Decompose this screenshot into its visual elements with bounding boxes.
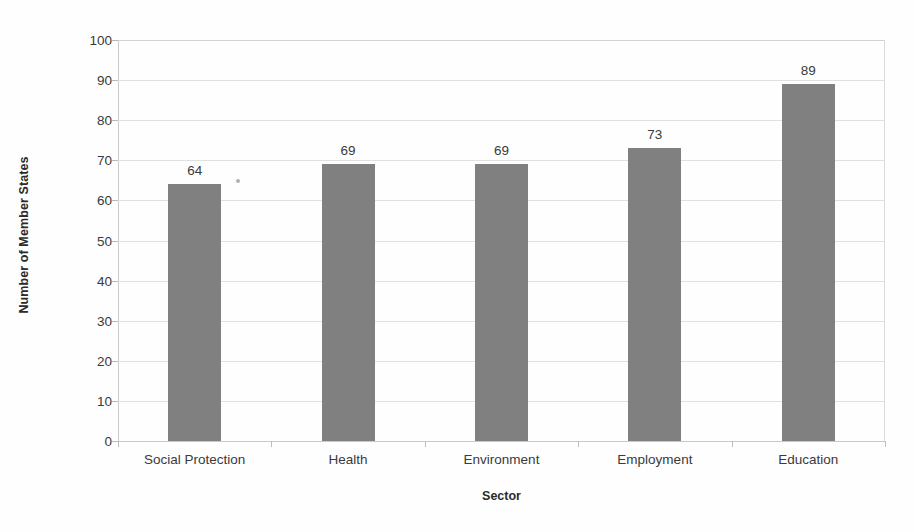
bar (475, 164, 528, 441)
y-tick-label-30: 30 (58, 313, 112, 328)
y-tick-label-20: 20 (58, 353, 112, 368)
y-tick-label-0: 0 (58, 434, 112, 449)
y-tick-label-40: 40 (58, 273, 112, 288)
y-tick-label-90: 90 (58, 73, 112, 88)
y-tick-label-60: 60 (58, 193, 112, 208)
x-category-label: Health (271, 452, 424, 467)
x-category-label: Employment (578, 452, 731, 467)
y-tick-label-50: 50 (58, 233, 112, 248)
x-category-label: Environment (425, 452, 578, 467)
bar-chart: Number of Member States 0102030405060708… (0, 0, 915, 532)
scan-artifact-speck (236, 179, 240, 183)
bar-series: 6469697389 (118, 40, 885, 441)
x-axis-title: Sector (118, 489, 885, 503)
bar (628, 148, 681, 441)
bar-value-label: 64 (118, 163, 271, 178)
x-tick-mark-2 (425, 441, 426, 447)
bar-value-label: 69 (425, 143, 578, 158)
x-category-label: Social Protection (118, 452, 271, 467)
y-tick-label-80: 80 (58, 113, 112, 128)
bar (782, 84, 835, 441)
x-category-label: Education (732, 452, 885, 467)
y-tick-label-100: 100 (58, 33, 112, 48)
x-tick-mark-0 (118, 441, 119, 447)
bar-value-label: 89 (732, 63, 885, 78)
gridline-0 (118, 441, 885, 442)
y-axis-ticks: 0102030405060708090100 (0, 0, 112, 470)
y-tick-label-70: 70 (58, 153, 112, 168)
bar-value-label: 69 (271, 143, 424, 158)
x-tick-mark-1 (271, 441, 272, 447)
x-tick-mark-4 (732, 441, 733, 447)
x-tick-mark-3 (578, 441, 579, 447)
y-tick-label-10: 10 (58, 393, 112, 408)
plot-area: 6469697389 (118, 40, 885, 441)
bar (322, 164, 375, 441)
bar-value-label: 73 (578, 127, 731, 142)
bar (168, 184, 221, 441)
x-tick-mark-5 (885, 441, 886, 447)
